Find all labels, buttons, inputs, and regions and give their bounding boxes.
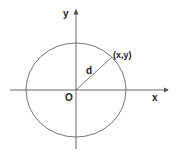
origin-label: O [65,92,73,103]
coordinate-diagram: y x O d (x,y) [0,0,177,157]
x-axis-label: x [152,92,158,103]
radius-line [76,57,112,90]
radius-label: d [86,65,92,76]
point-label: (x,y) [113,50,132,60]
y-axis-label: y [63,8,69,19]
